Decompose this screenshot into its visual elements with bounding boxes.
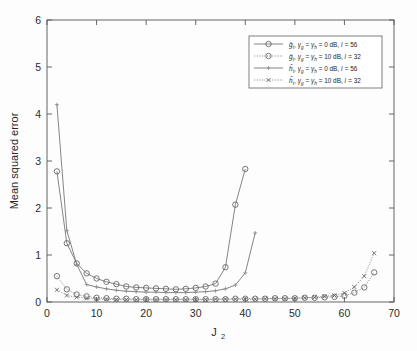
y-tick-label: 6 xyxy=(35,14,41,26)
data-point-x-marker xyxy=(233,297,237,301)
data-series-group xyxy=(54,103,377,302)
data-point-x-marker xyxy=(372,251,376,255)
data-point-plus-marker xyxy=(124,289,128,293)
data-point-plus-marker xyxy=(55,103,59,107)
data-point-x-marker xyxy=(55,288,59,292)
data-point-x-marker xyxy=(184,298,188,302)
y-tick-label: 5 xyxy=(35,61,41,73)
data-point-plus-marker xyxy=(214,289,218,293)
series-3 xyxy=(55,251,376,302)
series-0 xyxy=(54,166,248,292)
x-tick-label: 50 xyxy=(289,307,301,319)
data-point-plus-marker xyxy=(114,288,118,292)
x-axis-title: J 2 xyxy=(211,326,225,341)
data-point-plus-marker xyxy=(194,290,198,294)
y-tick-label: 0 xyxy=(35,296,41,308)
data-point-x-marker xyxy=(75,295,79,299)
x-tick-label: 10 xyxy=(91,307,103,319)
data-point-plus-marker xyxy=(223,287,227,291)
x-tick-label: 0 xyxy=(44,307,50,319)
mean-squared-error-chart: 010203040506070 0123456 Mean squared err… xyxy=(0,0,417,351)
data-point-x-marker xyxy=(174,298,178,302)
data-point-x-marker xyxy=(283,297,287,301)
data-point-x-marker xyxy=(65,293,69,297)
data-point-plus-marker xyxy=(104,287,108,291)
data-point-x-marker xyxy=(352,285,356,289)
data-point-plus-marker xyxy=(253,231,257,235)
data-point-plus-marker xyxy=(134,290,138,294)
x-tick-label: 30 xyxy=(190,307,202,319)
x-tick-label: 20 xyxy=(140,307,152,319)
data-point-plus-marker xyxy=(85,283,89,287)
data-point-x-marker xyxy=(342,291,346,295)
y-tick-label: 4 xyxy=(35,108,41,120)
data-point-plus-marker xyxy=(95,285,99,289)
x-tick-label: 60 xyxy=(339,307,351,319)
data-point-circle-marker xyxy=(371,270,376,275)
series-2 xyxy=(55,103,257,295)
y-tick-label: 2 xyxy=(35,202,41,214)
y-axis-title: Mean squared error xyxy=(8,112,20,209)
figure-container: 010203040506070 0123456 Mean squared err… xyxy=(0,0,417,351)
data-point-x-marker xyxy=(362,274,366,278)
series-1 xyxy=(54,270,377,302)
x-tick-label: 40 xyxy=(239,307,251,319)
y-tick-label: 1 xyxy=(35,249,41,261)
x-tick-label: 70 xyxy=(388,307,400,319)
x-axis-title-base: J xyxy=(211,326,217,338)
data-point-x-marker xyxy=(134,298,138,302)
data-point-plus-marker xyxy=(204,290,208,294)
legend[interactable]: ĝt, γg = γh = 0 dB, l = 56ĝt, γg = γh … xyxy=(249,36,382,88)
data-point-plus-marker xyxy=(144,290,148,294)
x-axis-title-subscript: 2 xyxy=(221,332,225,341)
data-point-circle-marker xyxy=(352,290,357,295)
y-tick-label: 3 xyxy=(35,155,41,167)
